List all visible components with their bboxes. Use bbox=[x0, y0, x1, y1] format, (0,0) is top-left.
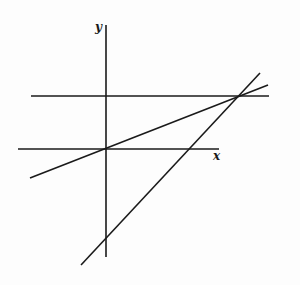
coordinate-diagram: x y bbox=[0, 0, 300, 285]
y-axis-label: y bbox=[94, 20, 103, 34]
shallow-line bbox=[30, 85, 268, 178]
x-axis-label: x bbox=[212, 149, 221, 163]
steep-line bbox=[81, 73, 260, 265]
